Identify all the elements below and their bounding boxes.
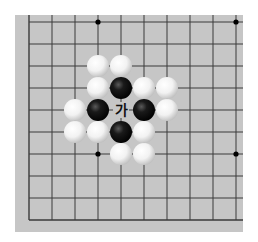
white-stone (64, 121, 86, 143)
black-stone (133, 99, 155, 121)
white-stone (87, 77, 109, 99)
white-stone (156, 99, 178, 121)
black-stone (87, 99, 109, 121)
star-point-icon (95, 19, 100, 24)
go-board-grid: 가 (15, 15, 243, 232)
black-stone (110, 77, 132, 99)
white-stone (133, 121, 155, 143)
star-point-icon (233, 19, 238, 24)
black-stone (110, 121, 132, 143)
white-stone (87, 121, 109, 143)
white-stone (64, 99, 86, 121)
point-label: 가 (115, 102, 128, 118)
star-point-icon (233, 151, 238, 156)
star-point-icon (95, 151, 100, 156)
white-stone (156, 77, 178, 99)
white-stone (110, 55, 132, 77)
white-stone (110, 143, 132, 165)
white-stone (133, 77, 155, 99)
labels-layer: 가 (113, 102, 129, 118)
white-stone (133, 143, 155, 165)
go-board: 가 (15, 15, 243, 232)
white-stone (87, 55, 109, 77)
